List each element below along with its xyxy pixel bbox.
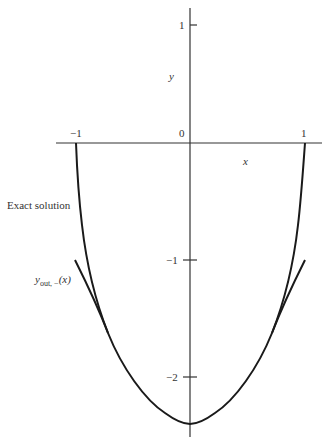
x-tick-label-neg1: −1	[70, 127, 82, 139]
x-tick-label-0: 0	[179, 127, 185, 139]
yout-curve-left	[75, 260, 108, 333]
exact-solution-label: Exact solution	[7, 199, 71, 211]
y-tick-label-1: 1	[179, 19, 185, 31]
y-axis-label: y	[168, 70, 174, 82]
yout-label-sub: out, −	[40, 279, 59, 288]
x-axis-label: x	[242, 155, 248, 167]
yout-label-arg: (x)	[59, 273, 72, 286]
y-tick-label-neg1: −1	[166, 254, 178, 266]
y-tick-label-neg2: −2	[166, 371, 178, 383]
yout-label: yout, −(x)	[34, 273, 71, 288]
chart-canvas: −1 0 1 1 −1 −2 y x Exact solution yout, …	[0, 0, 329, 440]
yout-curve-right	[272, 260, 305, 333]
x-tick-label-1: 1	[301, 127, 307, 139]
